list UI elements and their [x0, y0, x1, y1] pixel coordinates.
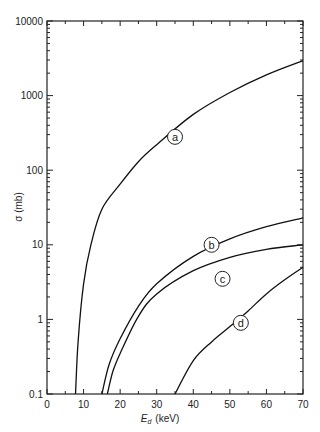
- x-tick-label: 60: [261, 399, 273, 410]
- x-tick-label: 70: [297, 399, 309, 410]
- curve-d: [175, 267, 303, 394]
- x-tick-label: 20: [115, 399, 127, 410]
- curve-labels: abcd: [168, 129, 249, 330]
- plot-frame: [47, 21, 303, 394]
- label-letter: d: [238, 317, 244, 329]
- curve-label-a: a: [168, 129, 183, 144]
- y-tick-label: 10: [32, 239, 44, 250]
- label-letter: c: [220, 273, 226, 285]
- y-axis-title: σ (mb): [13, 192, 24, 222]
- y-tick-label: 0.1: [29, 389, 43, 400]
- x-tick-label: 50: [224, 399, 236, 410]
- cross-section-chart: abcd 010203040506070 0.1110100100010000 …: [0, 0, 320, 432]
- curve-b: [102, 218, 303, 394]
- major-ticks: [47, 21, 303, 394]
- y-tick-label: 10000: [15, 16, 43, 27]
- y-tick-label: 100: [26, 165, 43, 176]
- x-axis-title-unit: (keV): [155, 413, 179, 424]
- curve-label-d: d: [233, 315, 248, 330]
- label-letter: a: [172, 131, 179, 143]
- x-axis-title-sub: d: [147, 418, 152, 425]
- x-tick-labels: 010203040506070: [44, 399, 309, 410]
- label-letter: b: [209, 239, 215, 251]
- x-tick-label: 40: [188, 399, 200, 410]
- x-tick-label: 10: [78, 399, 90, 410]
- minor-ticks: [47, 21, 303, 394]
- y-tick-label: 1: [37, 314, 43, 325]
- y-tick-label: 1000: [21, 90, 44, 101]
- x-tick-label: 0: [44, 399, 50, 410]
- curve-a: [76, 61, 304, 394]
- curve-label-b: b: [204, 237, 219, 252]
- curves: [76, 61, 304, 394]
- curve-c: [107, 245, 303, 394]
- curve-label-c: c: [215, 271, 230, 286]
- x-axis-title: Ed(keV): [141, 413, 179, 425]
- x-tick-label: 30: [151, 399, 163, 410]
